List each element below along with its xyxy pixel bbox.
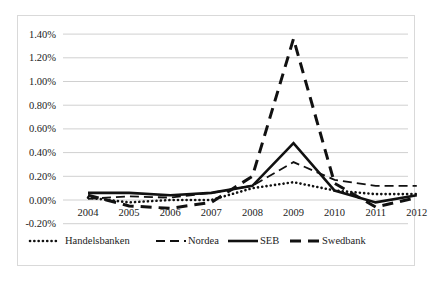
x-tick-label: 2005 [119, 207, 140, 218]
y-tick-label: 0.80% [29, 100, 56, 111]
x-tick-label: 2007 [201, 207, 222, 218]
y-axis-ticks: 1.40%1.20%1.00%0.80%0.60%0.40%0.20%0.00%… [25, 29, 56, 230]
x-tick-label: 2004 [78, 207, 100, 218]
y-tick-label: 0.60% [29, 123, 56, 134]
x-tick-label: 2009 [283, 207, 304, 218]
x-tick-label: 2012 [406, 207, 427, 218]
x-tick-label: 2010 [324, 207, 345, 218]
x-tick-label: 2008 [242, 207, 263, 218]
y-tick-label: 1.20% [29, 52, 56, 63]
legend-label-seb: SEB [260, 235, 279, 246]
y-tick-label: 0.00% [29, 195, 56, 206]
x-tick-label: 2011 [365, 207, 386, 218]
series-lines [88, 39, 417, 209]
y-tick-label: 1.00% [29, 76, 56, 87]
legend-label-nordea: Nordea [188, 235, 219, 246]
line-chart: 1.40%1.20%1.00%0.80%0.60%0.40%0.20%0.00%… [0, 0, 441, 284]
y-tick-label: -0.20% [25, 218, 56, 229]
legend-label-handelsbanken: Handelsbanken [65, 235, 130, 246]
legend-label-swedbank: Swedbank [322, 235, 366, 246]
y-tick-label: 0.20% [29, 171, 56, 182]
series-line-swedbank [88, 39, 417, 209]
x-axis-ticks: 200420052006200720082009201020112012 [78, 207, 428, 218]
y-tick-label: 0.40% [29, 147, 56, 158]
legend: HandelsbankenNordeaSEBSwedbank [30, 235, 366, 246]
y-tick-label: 1.40% [29, 29, 56, 40]
